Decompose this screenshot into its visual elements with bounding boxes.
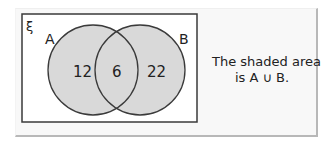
caption-line-2: is A ∪ B. xyxy=(212,70,312,86)
set-a-label: A xyxy=(45,31,55,47)
set-b-label: B xyxy=(179,31,189,47)
caption-line-1: The shaded area xyxy=(212,54,312,70)
a-only-value: 12 xyxy=(73,63,92,81)
caption: The shaded area is A ∪ B. xyxy=(212,54,312,86)
b-only-value: 22 xyxy=(147,63,166,81)
intersection-value: 6 xyxy=(112,63,122,81)
universal-set-symbol: ξ xyxy=(26,19,33,34)
